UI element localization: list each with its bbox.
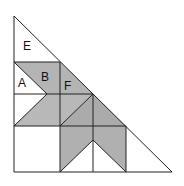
label-e: E	[23, 39, 31, 53]
label-f: F	[64, 79, 71, 93]
label-b: B	[41, 70, 49, 84]
label-a: A	[18, 76, 26, 90]
dissection-diagram: E B A F	[0, 0, 184, 186]
